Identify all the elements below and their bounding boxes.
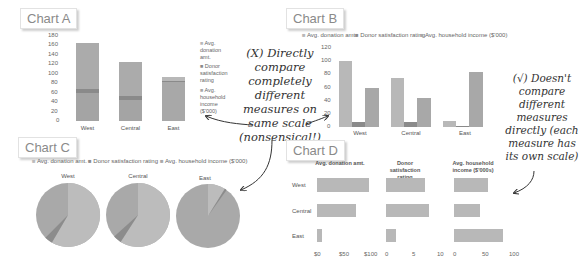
bar-east <box>454 229 503 242</box>
row-label: West <box>292 182 312 188</box>
panel-header: Avg. donation amt. <box>305 160 375 167</box>
x-tick: $100 <box>364 251 377 257</box>
x-tick: 0 <box>453 251 456 257</box>
panel-header: Avg. household income ($'000s) <box>448 160 498 174</box>
bar-west <box>386 178 425 192</box>
chart-d-title: Chart D <box>286 140 345 161</box>
bar-east <box>386 229 396 242</box>
pie-east <box>176 184 240 248</box>
bar-central <box>317 204 356 217</box>
bar-west <box>454 178 488 192</box>
bar-central <box>454 204 480 217</box>
pie-west <box>36 183 100 247</box>
x-tick: $0 <box>314 251 321 257</box>
row-label: East <box>292 233 312 239</box>
bar-central <box>386 204 429 217</box>
pie-central <box>106 183 170 247</box>
bar-west <box>317 178 369 192</box>
x-tick: 50 <box>482 251 489 257</box>
x-tick: 10 <box>437 251 444 257</box>
bar-east <box>317 229 322 242</box>
x-tick: 100 <box>509 251 519 257</box>
x-tick: 0 <box>385 251 388 257</box>
row-label: Central <box>292 208 312 214</box>
x-tick: 5 <box>412 251 415 257</box>
x-tick: $50 <box>339 251 349 257</box>
